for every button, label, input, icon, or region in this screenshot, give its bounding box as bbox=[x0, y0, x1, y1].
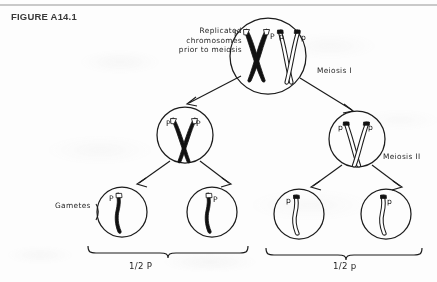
daughter-cell-light: p p bbox=[329, 111, 385, 167]
allele-label-parent-3: p bbox=[279, 32, 284, 41]
allele-label-daughter-light-1: p bbox=[338, 123, 343, 132]
gamete-1: P bbox=[97, 187, 147, 237]
arrow-meiosis2-right-a bbox=[311, 165, 342, 190]
arrow-meiosis1-left bbox=[187, 76, 241, 106]
daughter-cell-dark: P P bbox=[157, 107, 213, 163]
arrow-meiosis2-right-b bbox=[372, 165, 402, 190]
gamete-4: p bbox=[361, 189, 411, 239]
allele-label-daughter-light-2: p bbox=[368, 123, 373, 132]
ratio-label-left: 1/2 P bbox=[129, 261, 152, 271]
arrow-meiosis1-right bbox=[300, 78, 353, 113]
figure-page: FIGURE A14.1 P P p bbox=[0, 0, 437, 282]
gamete-1-allele-label: P bbox=[109, 194, 114, 203]
allele-label-parent-4: p bbox=[301, 33, 306, 42]
gamete-2-allele-label: P bbox=[213, 195, 218, 204]
arrow-meiosis2-left-a bbox=[137, 161, 170, 187]
gamete-3: p bbox=[274, 189, 324, 239]
label-meiosis-one: Meiosis I bbox=[317, 66, 352, 76]
label-gametes: Gametes bbox=[55, 201, 91, 211]
bracket-right bbox=[266, 248, 422, 260]
gamete-4-allele-label: p bbox=[387, 197, 392, 206]
arrow-meiosis2-left-b bbox=[200, 161, 231, 187]
label-meiosis-two: Meiosis II bbox=[383, 152, 420, 162]
allele-label-daughter-dark-2: P bbox=[196, 119, 201, 128]
allele-label-daughter-dark-1: P bbox=[166, 119, 171, 128]
bracket-left bbox=[88, 246, 248, 258]
annotation-line-2: chromosomes bbox=[186, 36, 242, 45]
annotation-line-3: prior to meiosis bbox=[179, 45, 242, 54]
annotation-replicated-chromosomes: Replicated chromosomes prior to meiosis bbox=[146, 26, 242, 55]
annotation-line-1: Replicated bbox=[200, 26, 242, 35]
gamete-2: P bbox=[187, 187, 237, 237]
gamete-3-allele-label: p bbox=[286, 196, 291, 205]
allele-label-parent-2: P bbox=[270, 32, 275, 41]
ratio-label-right: 1/2 p bbox=[333, 261, 357, 271]
